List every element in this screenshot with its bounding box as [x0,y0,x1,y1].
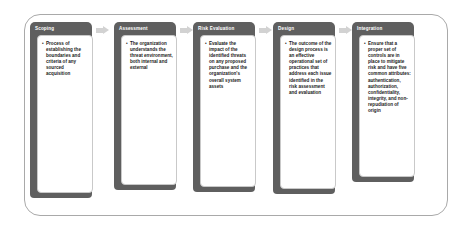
stage-scoping[interactable]: Scoping • Process of establishing the bo… [30,22,92,198]
right-arrow-icon-3 [259,26,273,35]
right-arrow-icon-1 [96,26,110,35]
bullet-text: Process of establishing the boundaries a… [46,41,89,78]
stage-header-risk-evaluation: Risk Evaluation [193,22,255,35]
arrow-head [103,26,109,34]
bullet-text: Evaluate the impact of the identified th… [209,41,252,90]
bullet-item: • Ensure that a proper set of controls a… [364,41,411,114]
stage-header-integration: Integration [352,22,414,35]
stage-card-assessment: • The organization understands the threa… [121,35,177,185]
stage-card-scoping: • Process of establishing the boundaries… [37,35,93,193]
bullet-item: • The organization understands the threa… [126,41,173,71]
bullet-item: • Process of establishing the boundaries… [42,41,89,78]
stage-card-risk-evaluation: • Evaluate the impact of the identified … [200,35,256,187]
stage-header-scoping: Scoping [30,22,92,35]
stage-design[interactable]: Design • The outcome of the design proce… [273,22,335,194]
stage-header-design: Design [273,22,335,35]
stage-shell-design: Design • The outcome of the design proce… [273,22,335,194]
arrow-head [266,26,272,34]
stage-shell-integration: Integration • Ensure that a proper set o… [352,22,414,182]
stage-assessment[interactable]: Assessment • The organization understand… [114,22,176,190]
bullet-text: The outcome of the design process is an … [289,41,332,96]
stage-track: Scoping • Process of establishing the bo… [30,22,454,212]
stage-header-assessment: Assessment [114,22,176,35]
bullet-text: The organization understands the threat … [130,41,173,71]
stage-integration[interactable]: Integration • Ensure that a proper set o… [352,22,414,182]
bullet-text: Ensure that a proper set of controls are… [368,41,411,114]
stage-shell-scoping: Scoping • Process of establishing the bo… [30,22,92,198]
right-arrow-icon-2 [180,26,194,35]
stage-card-design: • The outcome of the design process is a… [280,35,336,189]
bullet-item: • Evaluate the impact of the identified … [205,41,252,90]
stage-shell-assessment: Assessment • The organization understand… [114,22,176,190]
stage-risk-evaluation[interactable]: Risk Evaluation • Evaluate the impact of… [193,22,255,192]
right-arrow-icon-4 [339,26,353,35]
stage-card-integration: • Ensure that a proper set of controls a… [359,35,415,177]
stage-shell-risk-evaluation: Risk Evaluation • Evaluate the impact of… [193,22,255,192]
process-flow-diagram: Scoping • Process of establishing the bo… [0,0,466,235]
bullet-item: • The outcome of the design process is a… [285,41,332,96]
